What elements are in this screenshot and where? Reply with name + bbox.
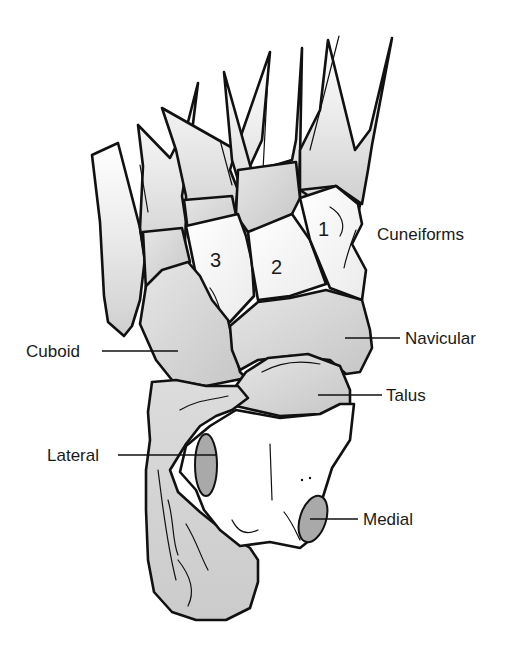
label-lateral: Lateral [47, 447, 99, 464]
metatarsal-5 [92, 143, 145, 336]
cuneiform-number-1: 1 [318, 219, 329, 239]
label-navicular: Navicular [405, 330, 476, 347]
cuneiform-number-2: 2 [271, 257, 282, 277]
label-medial: Medial [363, 511, 413, 528]
label-talus: Talus [386, 387, 426, 404]
cuneiform-number-3: 3 [210, 250, 221, 270]
label-cuboid: Cuboid [26, 343, 80, 360]
metatarsal-1 [300, 38, 392, 204]
label-cuneiforms: Cuneiforms [377, 226, 464, 243]
lateral-facet [195, 434, 217, 496]
